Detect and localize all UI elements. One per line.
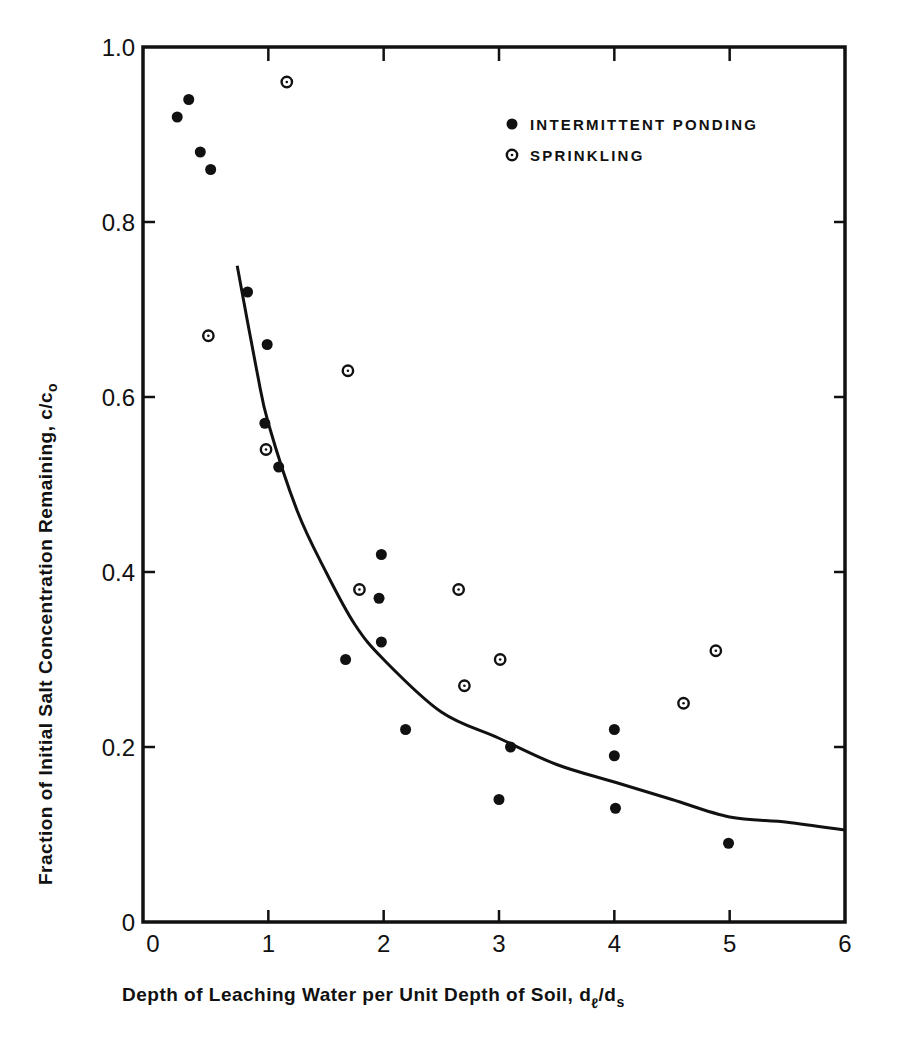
sprinkling-point: [354, 584, 364, 594]
fitted-curve: [237, 266, 845, 830]
x-axis-title-sub1: ℓ: [591, 995, 598, 1011]
sprinkling-point: [343, 366, 353, 376]
fitted-curve-line: [237, 266, 845, 830]
x-tick-label: 0: [146, 930, 159, 957]
sprinkling-point: [711, 646, 721, 656]
plot-border: [143, 47, 845, 922]
x-axis-title-main: Depth of Leaching Water per Unit Depth o…: [122, 984, 591, 1005]
y-tick-label: 0: [122, 909, 135, 936]
sprinkling-point: [453, 584, 463, 594]
y-tick-label: 0.6: [102, 384, 135, 411]
ponding-point: [374, 593, 385, 604]
x-tick-label: 2: [377, 930, 390, 957]
data-points: [172, 77, 734, 849]
ponding-point: [172, 112, 183, 123]
legend-item-sprinkling: SPRINKLING: [507, 147, 645, 164]
legend-label-sprinkling: SPRINKLING: [530, 147, 645, 164]
ponding-point: [259, 418, 270, 429]
ponding-point: [273, 462, 284, 473]
ponding-point: [723, 838, 734, 849]
x-tick-label: 3: [492, 930, 505, 957]
dotted-circle-center: [511, 154, 514, 157]
sprinkling-point: [203, 331, 213, 341]
y-axis-title-main: Fraction of Initial Salt Concentration R…: [35, 392, 56, 885]
ponding-point: [242, 287, 253, 298]
x-axis-title-sub2: s: [616, 994, 624, 1010]
y-axis-title-sub: o: [44, 383, 60, 392]
x-tick-label: 6: [838, 930, 851, 957]
x-tick-label: 4: [608, 930, 621, 957]
ponding-point: [195, 147, 206, 158]
x-axis-title: Depth of Leaching Water per Unit Depth o…: [122, 984, 625, 1011]
ponding-point: [262, 339, 273, 350]
filled-circle-icon: [507, 119, 518, 130]
x-tick-label: 1: [262, 930, 275, 957]
ponding-point: [340, 654, 351, 665]
scatter-plot: 012345600.20.40.60.81.0 INTERMITTENT PON…: [0, 0, 902, 1037]
ponding-point: [376, 637, 387, 648]
ponding-point: [183, 94, 194, 105]
legend-item-ponding: INTERMITTENT PONDING: [507, 116, 759, 133]
ponding-point: [609, 750, 620, 761]
plot-frame: [143, 47, 845, 922]
ponding-point: [205, 164, 216, 175]
ponding-point: [494, 794, 505, 805]
ponding-point: [505, 742, 516, 753]
sprinkling-point: [282, 77, 292, 87]
chart-figure: 012345600.20.40.60.81.0 INTERMITTENT PON…: [0, 0, 902, 1037]
x-axis-title-slash: /d: [599, 984, 617, 1005]
ponding-point: [400, 724, 411, 735]
sprinkling-point: [678, 698, 688, 708]
legend-label-ponding: INTERMITTENT PONDING: [530, 116, 758, 133]
y-tick-label: 1.0: [102, 34, 135, 61]
y-tick-label: 0.4: [102, 559, 135, 586]
ponding-point: [610, 803, 621, 814]
x-tick-label: 5: [723, 930, 736, 957]
ponding-point: [376, 549, 387, 560]
ponding-point: [609, 724, 620, 735]
sprinkling-point: [261, 444, 271, 454]
y-axis-title: Fraction of Initial Salt Concentration R…: [35, 383, 60, 885]
sprinkling-point: [459, 681, 469, 691]
sprinkling-point: [495, 654, 505, 664]
y-tick-label: 0.8: [102, 209, 135, 236]
y-tick-label: 0.2: [102, 734, 135, 761]
legend: INTERMITTENT PONDING SPRINKLING: [507, 116, 759, 164]
